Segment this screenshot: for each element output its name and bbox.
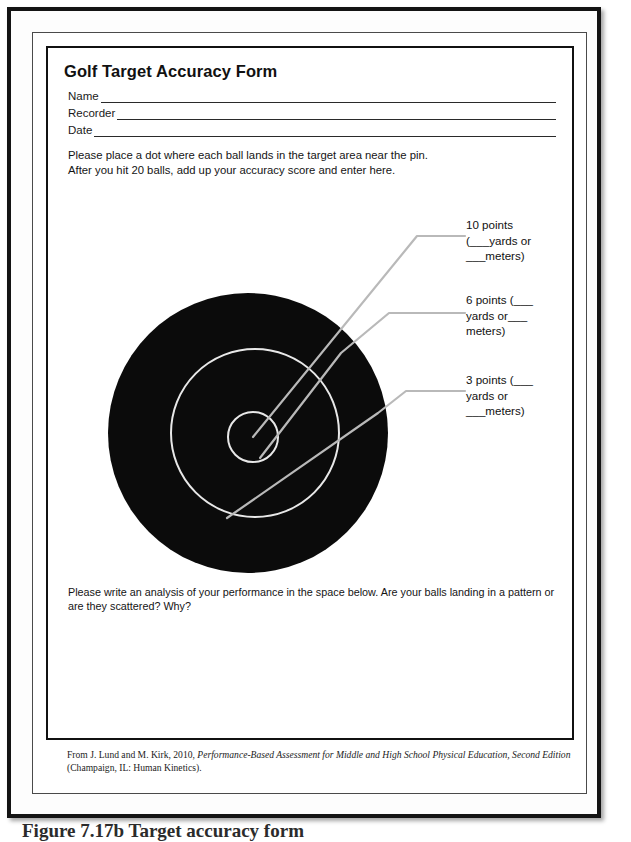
recorder-input[interactable] bbox=[117, 108, 556, 120]
annotation-6-points-line-1: 6 points (___ bbox=[466, 292, 584, 308]
annotation-3-points-line-2: yards or bbox=[466, 388, 584, 404]
page-title: Golf Target Accuracy Form bbox=[64, 62, 558, 81]
target-diagram-area: 10 points (___yards or ___meters) 6 poin… bbox=[48, 188, 572, 578]
citation-title: Performance-Based Assessment for Middle … bbox=[197, 749, 570, 760]
instruction-line-1: Please place a dot where each ball lands… bbox=[68, 148, 556, 163]
recorder-field-label: Recorder bbox=[68, 107, 115, 120]
annotation-6-points-line-2: yards or___ bbox=[466, 308, 584, 324]
annotation-10-points-line-1: 10 points bbox=[466, 217, 584, 233]
annotation-3-points-line-1: 3 points (___ bbox=[466, 372, 584, 388]
date-field-label: Date bbox=[68, 124, 92, 137]
source-citation: From J. Lund and M. Kirk, 2010, Performa… bbox=[67, 749, 579, 774]
page-sheet: Golf Target Accuracy Form Name Recorder … bbox=[32, 32, 587, 794]
citation-prefix: From J. Lund and M. Kirk, 2010, bbox=[67, 749, 197, 760]
form-inner: Golf Target Accuracy Form Name Recorder … bbox=[48, 48, 572, 738]
annotation-3-points-line-3: ___meters) bbox=[466, 403, 584, 419]
annotation-10-points-line-2: (___yards or bbox=[466, 233, 584, 249]
citation-suffix: (Champaign, IL: Human Kinetics). bbox=[67, 762, 202, 773]
outer-ring-disc bbox=[108, 293, 388, 573]
instructions-block: Please place a dot where each ball lands… bbox=[68, 148, 556, 177]
figure-caption: Figure 7.17b Target accuracy form bbox=[22, 820, 304, 842]
date-input[interactable] bbox=[94, 125, 556, 137]
annotation-3-points: 3 points (___ yards or ___meters) bbox=[466, 372, 584, 419]
field-row-date: Date bbox=[68, 122, 556, 137]
instruction-line-2: After you hit 20 balls, add up your accu… bbox=[68, 163, 556, 178]
annotation-10-points: 10 points (___yards or ___meters) bbox=[466, 217, 584, 264]
name-field-label: Name bbox=[68, 90, 99, 103]
scanned-page-frame: Golf Target Accuracy Form Name Recorder … bbox=[7, 7, 601, 818]
field-row-name: Name bbox=[68, 88, 556, 103]
annotation-6-points-line-3: meters) bbox=[466, 323, 584, 339]
name-input[interactable] bbox=[101, 91, 556, 103]
analysis-prompt: Please write an analysis of your perform… bbox=[68, 586, 562, 613]
annotation-10-points-line-3: ___meters) bbox=[466, 248, 584, 264]
annotation-6-points: 6 points (___ yards or___ meters) bbox=[466, 292, 584, 339]
field-row-recorder: Recorder bbox=[68, 105, 556, 120]
form-box: Golf Target Accuracy Form Name Recorder … bbox=[46, 46, 574, 740]
